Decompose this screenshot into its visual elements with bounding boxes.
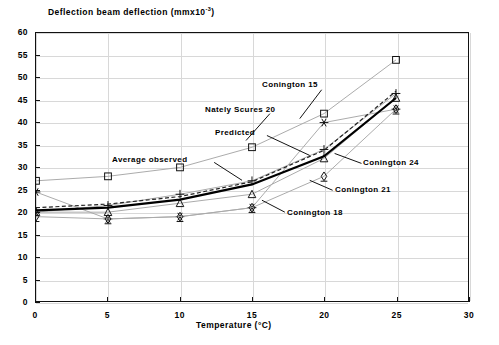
chart-title-tail: ): [211, 7, 214, 17]
annotation-leader-line: [262, 200, 285, 212]
annotation-label: Conington 18: [287, 208, 343, 217]
x-axis-tick-label: 5: [105, 310, 110, 320]
chart-title-text: Deflection beam deflection (mmx10: [48, 7, 206, 17]
annotation-label: Conington 15: [262, 80, 318, 89]
y-axis-tick-mark: [35, 235, 40, 236]
y-axis-tick-label: 25: [8, 185, 28, 195]
data-point-asterisk: [320, 119, 329, 127]
y-axis-tick-mark: [35, 100, 40, 101]
x-axis-tick-label: 0: [32, 310, 37, 320]
x-axis-tick-mark: [35, 297, 36, 302]
annotation-label: Average observed: [112, 155, 187, 164]
y-axis-tick-mark: [35, 280, 40, 281]
y-axis-tick-mark: [35, 32, 40, 33]
x-axis-tick-mark: [324, 297, 325, 302]
x-axis-tick-label: 30: [464, 310, 474, 320]
y-axis-tick-label: 20: [8, 207, 28, 217]
series-line-0: [36, 60, 396, 181]
x-axis-label: Temperature (°C): [196, 320, 272, 330]
y-axis-tick-mark: [35, 302, 40, 303]
x-axis-tick-mark: [252, 297, 253, 302]
x-axis-tick-mark: [180, 297, 181, 302]
annotation-leader-line: [300, 90, 322, 119]
data-layer: [36, 33, 468, 302]
y-axis-tick-label: 30: [8, 162, 28, 172]
y-axis-tick-label: 60: [8, 27, 28, 37]
annotation-leader-line: [335, 153, 362, 163]
y-axis-tick-label: 35: [8, 140, 28, 150]
x-axis-tick-mark: [397, 297, 398, 302]
annotation-label: Conington 21: [335, 185, 391, 194]
x-axis-tick-mark: [107, 297, 108, 302]
y-axis-tick-label: 0: [8, 297, 28, 307]
y-axis-tick-label: 10: [8, 252, 28, 262]
annotation-label: Conington 24: [363, 158, 419, 167]
chart-title: Deflection beam deflection (mmx10-3): [48, 6, 215, 17]
y-axis-tick-mark: [35, 122, 40, 123]
y-axis-tick-label: 5: [8, 275, 28, 285]
y-axis-tick-label: 50: [8, 72, 28, 82]
data-point-plus: [176, 190, 185, 199]
y-axis-tick-mark: [35, 167, 40, 168]
y-axis-tick-mark: [35, 257, 40, 258]
y-axis-tick-mark: [35, 77, 40, 78]
annotation-leader-line: [267, 136, 310, 156]
x-axis-tick-mark: [469, 297, 470, 302]
x-axis-tick-label: 10: [175, 310, 185, 320]
y-axis-tick-label: 40: [8, 117, 28, 127]
y-axis-tick-mark: [35, 145, 40, 146]
y-axis-tick-mark: [35, 212, 40, 213]
x-axis-tick-label: 15: [247, 310, 257, 320]
y-axis-tick-label: 45: [8, 95, 28, 105]
x-axis-tick-label: 25: [392, 310, 402, 320]
gridline-horizontal: [36, 303, 468, 304]
y-axis-tick-label: 55: [8, 50, 28, 60]
gridline-vertical: [470, 33, 471, 301]
x-axis-tick-label: 20: [319, 310, 329, 320]
y-axis-tick-mark: [35, 190, 40, 191]
annotation-leader-line: [214, 162, 242, 180]
chart-figure: Deflection beam deflection (mmx10-3) 051…: [0, 0, 499, 345]
plot-area: [35, 32, 469, 302]
y-axis-tick-label: 15: [8, 230, 28, 240]
annotation-leader-line: [310, 180, 333, 190]
annotation-label: Nately Scures 20: [205, 105, 275, 114]
y-axis-tick-mark: [35, 55, 40, 56]
series-line-3: [36, 98, 396, 212]
annotation-label: Predicted: [215, 128, 255, 137]
